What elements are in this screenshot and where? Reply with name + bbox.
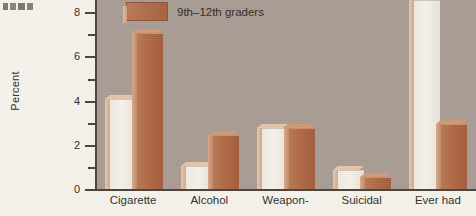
y-tick-major-2 (85, 145, 96, 147)
plot-area: 9th–12th graders (95, 0, 476, 190)
y-tick-label-6: 6 (54, 51, 80, 62)
x-tick-label-everhad: Ever had (400, 194, 476, 206)
x-axis-line (95, 189, 476, 191)
chart-legend: 9th–12th graders (126, 2, 264, 21)
bar-face (213, 135, 239, 190)
y-tick-major-6 (85, 56, 96, 58)
y-tick-minor-3 (88, 123, 96, 125)
y-tick-major-4 (85, 101, 96, 103)
y-tick-label-4: 4 (54, 96, 80, 107)
x-tick-label-cigarette: Cigarette (95, 194, 171, 206)
bar-face (365, 177, 391, 190)
y-tick-major-0 (85, 189, 96, 191)
legend-label-9th-12th-graders: 9th–12th graders (177, 6, 264, 18)
y-tick-minor-7 (88, 34, 96, 36)
cropped-text-fragment (3, 3, 33, 10)
bar-face (289, 128, 315, 190)
legend-swatch-shade (123, 6, 127, 23)
x-tick-label-suicidal: Suicidal (324, 194, 400, 206)
y-tick-label-2: 2 (54, 140, 80, 151)
y-tick-minor-5 (88, 79, 96, 81)
bar-cigarette-series1 (137, 33, 163, 190)
x-tick-label-weapon: Weapon- (247, 194, 323, 206)
bar-weapon-series1 (289, 128, 315, 190)
bar-alcohol-series1 (213, 135, 239, 190)
legend-swatch-9th-12th-graders (126, 2, 168, 21)
bar-suicidal-series1 (365, 177, 391, 190)
y-tick-label-0: 0 (54, 184, 80, 195)
bar-face (441, 124, 467, 190)
y-axis-title: Percent (9, 56, 21, 126)
bar-everhad-series1 (441, 124, 467, 190)
bar-face (137, 33, 163, 190)
x-tick-label-alcohol: Alcohol (171, 194, 247, 206)
y-axis-line (95, 0, 97, 191)
y-tick-label-8: 8 (54, 7, 80, 18)
y-tick-major-8 (85, 12, 96, 14)
y-tick-minor-1 (88, 167, 96, 169)
